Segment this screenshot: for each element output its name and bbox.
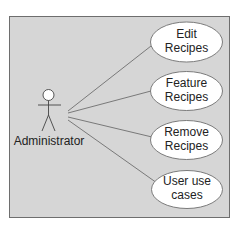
use-case-diagram: Administrator Edit Recipes Feature Recip…	[0, 0, 238, 226]
use-case-label-line2: Recipes	[165, 41, 208, 55]
use-case-feature-recipes[interactable]: Feature Recipes	[151, 72, 223, 111]
use-case-label-line1: User use	[163, 174, 211, 188]
use-case-label-line1: Feature	[166, 76, 208, 90]
use-case-remove-recipes[interactable]: Remove Recipes	[151, 121, 223, 160]
actor-head-icon	[43, 90, 54, 101]
use-case-label-line2: Recipes	[165, 90, 208, 104]
actor-label: Administrator	[14, 134, 85, 148]
use-case-label-line2: Recipes	[165, 139, 208, 153]
use-case-user-use-cases[interactable]: User use cases	[152, 171, 223, 209]
use-case-edit-recipes[interactable]: Edit Recipes	[151, 22, 223, 62]
use-case-label-line2: cases	[171, 188, 202, 202]
use-case-label-line1: Remove	[164, 125, 209, 139]
use-case-label-line1: Edit	[176, 27, 197, 41]
